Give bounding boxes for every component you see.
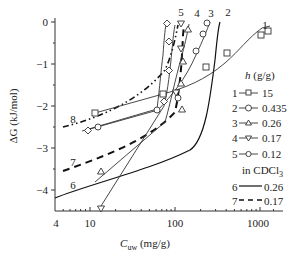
svg-text:0.17: 0.17 <box>264 195 284 207</box>
svg-text:4: 4 <box>232 132 238 144</box>
legend-entry-2: 2 0.435 <box>232 102 287 114</box>
marker-diamond <box>161 98 168 105</box>
curve-label: 7 <box>70 156 76 168</box>
marker-triangle-up <box>185 26 192 32</box>
curve-label: 1 <box>262 19 268 31</box>
sample-curves <box>82 22 270 206</box>
marker-diamond <box>166 67 173 74</box>
legend-subheading: in CDCl3 <box>242 164 283 179</box>
legend-entry-4: 4 0.17 <box>232 132 282 144</box>
svg-text:3: 3 <box>232 117 238 129</box>
svg-text:6: 6 <box>232 181 238 193</box>
svg-text:5: 5 <box>232 148 238 160</box>
curve-2 <box>90 22 210 129</box>
curve-label: 5 <box>178 6 184 18</box>
curve-label: 6 <box>70 179 76 191</box>
curve-label: 8 <box>70 113 76 125</box>
y-tick-label: −2 <box>36 100 48 112</box>
marker-square <box>258 32 264 38</box>
svg-text:0.12: 0.12 <box>262 148 281 160</box>
x-tick-label: 100 <box>167 217 184 229</box>
curve-label: 4 <box>194 7 200 19</box>
marker-circle <box>200 31 206 37</box>
y-tick-label: 0 <box>43 16 49 28</box>
marker-circle <box>193 48 199 54</box>
x-axis-title: Cuw (mg/g) <box>120 237 170 252</box>
legend-title: h (g/g) <box>245 69 275 82</box>
marker-triangle-up <box>98 168 105 174</box>
legend: h (g/g) 1 15 2 0.435 3 0.26 4 0.17 5 <box>232 69 287 207</box>
svg-text:7: 7 <box>232 195 238 207</box>
svg-text:0.435: 0.435 <box>262 102 287 114</box>
marker-circle <box>204 20 210 26</box>
marker-diamond <box>166 38 173 45</box>
curve-3 <box>95 24 189 182</box>
svg-text:15: 15 <box>262 87 274 99</box>
y-tick-label: −1 <box>36 58 48 70</box>
y-axis-title: ΔG (kJ/mol) <box>7 88 20 143</box>
marker-triangle-up <box>179 106 186 112</box>
marker-circle <box>95 124 101 130</box>
marker-circle <box>154 107 160 113</box>
x-tick-label: 1000 <box>247 217 270 229</box>
legend-entry-6: 6 0.26 <box>232 181 284 193</box>
legend-entry-1: 1 15 <box>232 87 274 99</box>
marker-square <box>92 110 98 116</box>
curve-1 <box>95 26 270 113</box>
marker-square <box>203 64 209 70</box>
curve-labels: 5 4 3 2 1 8 7 6 <box>70 6 268 191</box>
marker-square <box>160 91 166 97</box>
curve-label: 3 <box>208 7 214 19</box>
legend-entry-5: 5 0.12 <box>232 148 281 160</box>
svg-text:0.26: 0.26 <box>264 181 284 193</box>
chart: 0 −1 −2 −3 −4 4 10 100 1000 ΔG (kJ/mol) … <box>0 0 306 258</box>
x-tick-label: 10 <box>85 217 97 229</box>
y-tick-label: −3 <box>36 142 48 154</box>
y-tick-label: −4 <box>36 184 48 196</box>
markers <box>85 20 272 212</box>
marker-diamond <box>85 127 92 134</box>
marker-square <box>224 50 230 56</box>
svg-text:2: 2 <box>232 102 238 114</box>
legend-entry-7: 7 0.17 <box>232 195 284 207</box>
svg-text:0.17: 0.17 <box>262 132 282 144</box>
marker-triangle-up <box>178 80 185 86</box>
svg-text:1: 1 <box>232 87 238 99</box>
svg-text:0.26: 0.26 <box>262 117 282 129</box>
legend-entry-3: 3 0.26 <box>232 117 282 129</box>
curve-label: 2 <box>225 6 231 18</box>
y-tick-labels: 0 −1 −2 −3 −4 <box>36 16 48 196</box>
x-tick-labels: 4 10 100 1000 <box>53 217 269 229</box>
x-tick-label: 4 <box>53 217 59 229</box>
marker-diamond <box>164 20 171 27</box>
